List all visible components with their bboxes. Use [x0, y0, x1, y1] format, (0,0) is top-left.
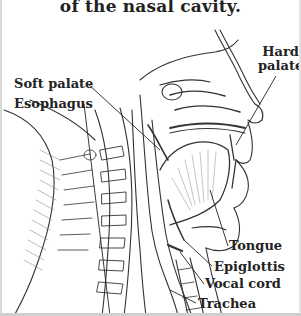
esophagus-leader: [84, 104, 110, 316]
epiglottis-leader: [184, 240, 212, 266]
hard-palate-leader: [236, 76, 276, 145]
label-hard-palate-line2: palate: [258, 59, 301, 73]
label-trachea: Trachea: [198, 297, 256, 311]
frame-border-right: [299, 0, 301, 316]
tongue-leader: [210, 190, 228, 246]
frame-border-left: [0, 0, 2, 316]
label-soft-palate: Soft palate: [14, 77, 93, 91]
label-epiglottis: Epiglottis: [214, 260, 285, 274]
label-hard-palate-line1: Hard: [258, 45, 301, 59]
label-tongue: Tongue: [229, 239, 282, 253]
label-vocal-cord: Vocal cord: [205, 277, 281, 291]
label-esophagus: Esophagus: [14, 97, 93, 111]
label-hard-palate: Hard palate: [258, 45, 301, 73]
vocal-cord-leader: [180, 252, 204, 284]
soft-palate-leader: [88, 84, 160, 150]
anatomy-figure: of the nasal cavity.: [0, 0, 301, 316]
